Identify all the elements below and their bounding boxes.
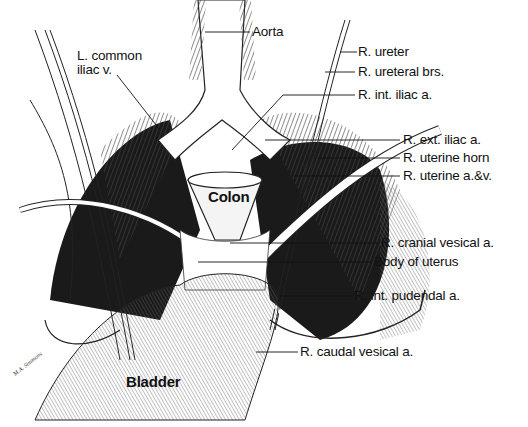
label-r-cranial-vesical-a: R. cranial vesical a. [381, 236, 494, 250]
label-l-common-iliac-v-2: iliac v. [77, 63, 112, 77]
label-r-uterine-a-v: R. uterine a.&v. [403, 169, 492, 183]
label-r-int-pudendal-a: R. int. pudendal a. [354, 289, 460, 303]
label-r-uterine-horn: R. uterine horn [403, 151, 489, 165]
label-l-common-iliac-v-1: L. common [77, 49, 142, 63]
label-colon: Colon [208, 190, 250, 204]
label-body-of-uterus: Body of uterus [374, 255, 458, 269]
label-r-ureteral-brs: R. ureteral brs. [358, 65, 444, 79]
label-r-int-iliac-a: R. int. iliac a. [358, 88, 432, 102]
label-aorta: Aorta [252, 25, 283, 39]
label-bladder: Bladder [126, 375, 180, 389]
label-r-caudal-vesical-a: R. caudal vesical a. [300, 345, 413, 359]
label-r-ureter: R. ureter [358, 45, 409, 59]
label-r-ext-iliac-a: R. ext. iliac a. [403, 133, 481, 147]
